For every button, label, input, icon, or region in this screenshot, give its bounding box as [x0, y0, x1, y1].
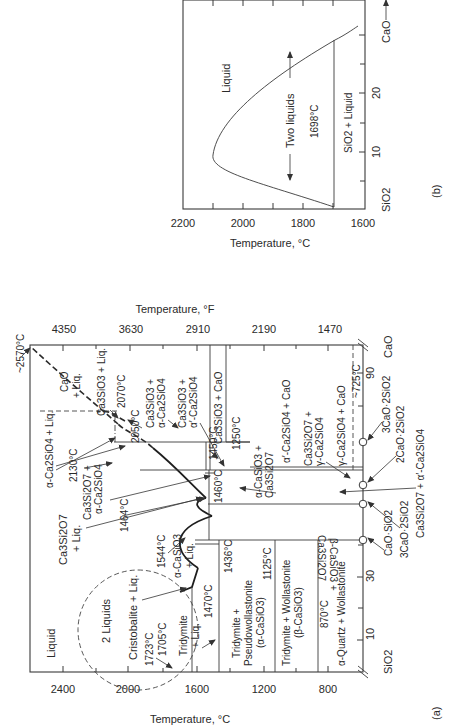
panel-b-temp-ticks — [213, 0, 333, 209]
compound-marker-3c2s-b — [359, 438, 367, 446]
label-2130: 2130°C — [68, 449, 79, 482]
region-ca3si2o7-gca2sio4-1: Ca3Si2O7 + — [303, 411, 314, 466]
panel-b-tick-2000: 2000 — [231, 217, 255, 229]
tick-2400: 2400 — [51, 683, 75, 695]
panel-b-comp-ticks — [359, 35, 365, 181]
region-trid-pseudo-3: (α-CaSiO3) — [255, 597, 266, 648]
liquidus-a-ca2sio4 — [153, 448, 206, 498]
region-ca3si2o7-liq-1: Ca3Si2O7 — [57, 514, 69, 565]
tick-2000: 2000 — [116, 683, 140, 695]
compound-casio2: CaO·SiO2 — [383, 509, 394, 556]
panel-b-comp-10: 10 — [370, 146, 382, 158]
region-ca3si2o7-aca2sio4-2: α-Ca2SiO4 — [93, 464, 104, 514]
region-ca3si2o7-aca2sio4-1: Ca3Si2O7 + — [82, 465, 93, 520]
region-trid-pseudo-1: Tridymite + — [231, 608, 242, 658]
region-liquid: Liquid — [45, 629, 57, 658]
label-1470: 1470°C — [203, 585, 214, 618]
tick-4350: 4350 — [52, 323, 76, 335]
region-gca2sio4-cao: γ-Ca2SiO4 + CaO — [336, 385, 347, 466]
label-1125: 1125°C — [262, 547, 273, 580]
compound-ca3si2o7-aca2sio4: Ca3Si2O7 + α′-Ca2SiO4 — [415, 428, 426, 538]
label-1723: 1723°C — [144, 633, 155, 666]
region-a-casio3-liq-2: + Liq. — [184, 543, 195, 568]
compound-marker-3c2s-a — [359, 500, 367, 508]
region-2-liquids: 2 Liquids — [100, 598, 112, 643]
phase-diagram-figure: 2400 2000 1600 1200 800 4350 3630 2910 2… — [0, 0, 463, 728]
compound-marker-casio2 — [359, 536, 367, 544]
panel-b: Liquid Two liquids 1698°C SiO2 + Liquid … — [171, 0, 442, 249]
region-bcasio3-ca3si2o7-2: Ca3Si2O7 — [316, 535, 327, 582]
panel-b-sio2: SiO2 — [380, 188, 392, 212]
panel-b-two-liquids: Two liquids — [284, 93, 296, 148]
region-a2ca2sio4-cao: α′-Ca2SiO4 + CaO — [281, 379, 292, 463]
region-cristobalite-liq: Cristobalite + Liq. — [127, 575, 139, 660]
temp-f-axis-label: Temperature, °F — [136, 303, 215, 315]
region-acasio3-ca3si2o7-2: Ca3Si2O7 — [264, 451, 275, 498]
tick-1200: 1200 — [252, 683, 276, 695]
label-2070: 2070°C — [116, 375, 127, 408]
region-trid-woll-1: Tridymite + Wollastonite — [281, 559, 292, 666]
region-ca3sio3-cao: Ca3SiO3 + CaO — [213, 371, 224, 444]
region-trid-woll-2: (β-CaSiO3) — [293, 587, 304, 638]
region-cao-liq-2: + Liq. — [71, 373, 82, 398]
panel-b-tick-2200: 2200 — [171, 217, 195, 229]
arrow-tridymite-liq — [202, 640, 215, 648]
tick-1470: 1470 — [318, 323, 342, 335]
region-ca3sio3-liq: Ca3SiO3 + Liq. — [96, 348, 107, 416]
arrow-ca3si2o7-aca2sio4 — [340, 488, 416, 492]
endpoint-cao: CaO — [382, 335, 394, 358]
panel-b-frame — [183, 0, 365, 209]
arrow-1723 — [156, 658, 172, 668]
label-1544: 1544°C — [156, 535, 167, 568]
liquidus-ca3si2o7 — [197, 498, 212, 516]
tick-3630: 3630 — [119, 323, 143, 335]
arrow-cristobalite — [142, 588, 186, 600]
tick-1600: 1600 — [185, 683, 209, 695]
region-ca3sio3-a2ca2sio4-2: α′-Ca2SiO4 — [188, 376, 199, 428]
label-1250: 1250°C — [231, 417, 242, 450]
compound-2cao-2sio2: 2CaO·2SiO2 — [395, 405, 406, 463]
arrow-casio2 — [368, 538, 384, 550]
panel-a-label: (a) — [430, 707, 442, 720]
endpoint-sio2: SiO2 — [382, 650, 394, 674]
label-1436: 1436°C — [223, 540, 234, 573]
region-a-casio3-liq-1: α-CaSiO3 — [172, 533, 183, 578]
compound-3cao-2sio2-a: 3CaO·2SiO2 — [399, 500, 410, 558]
panel-b-1698: 1698°C — [309, 105, 320, 138]
region-cao-liq-1: CaO — [59, 371, 70, 392]
tick-800: 800 — [319, 683, 337, 695]
region-bcasio3-ca3si2o7-1: β-CaSiO3 + — [328, 538, 339, 591]
panel-b-tick-1600: 1600 — [351, 217, 375, 229]
temp-c-axis-label: Temperature, °C — [150, 713, 230, 725]
compound-marker-2c2s — [359, 481, 367, 489]
label-1460: 1460°C — [213, 470, 224, 503]
comp-10: 10 — [364, 628, 376, 640]
region-ca3sio3-aca2sio4-1: Ca3SiO3 + — [145, 379, 156, 428]
label-870: 870°C — [319, 600, 330, 628]
arrow-aca2sio4-liq-1 — [56, 438, 115, 470]
panel-b-cao: CaO — [380, 20, 392, 43]
tick-2910: 2910 — [186, 323, 210, 335]
label-1705: 1705°C — [157, 623, 168, 656]
panel-b-sio2-liquid: SiO2 + Liquid — [343, 93, 354, 153]
arrow-aca2sio4-liq-2 — [56, 446, 125, 466]
region-aca2sio4-liq: α-Ca2SiO4 + Liq. — [44, 411, 55, 488]
region-ca3si2o7-liq-2: + Liq. — [70, 525, 82, 552]
comp-30: 30 — [364, 570, 376, 582]
compound-3cao-2sio2-b: 3CaO·2SiO2 — [381, 375, 392, 433]
panel-a: 2400 2000 1600 1200 800 4350 3630 2910 2… — [15, 303, 442, 725]
arrow-1464 — [122, 498, 205, 516]
label-725: ~725°C — [351, 364, 362, 398]
region-trid-pseudo-2: Pseudowollastonite — [243, 579, 254, 666]
region-ca3sio3-aca2sio4-2: α-Ca2SiO4 — [156, 378, 167, 428]
panel-b-temp-label: Temperature, °C — [230, 237, 310, 249]
liquidus-tail — [335, 26, 358, 40]
region-tridymite-liq-1: Tridymite — [178, 615, 189, 656]
region-ca3si2o7-gca2sio4-2: γ-Ca2SiO4 — [314, 417, 325, 466]
region-tridymite-liq-2: + Liq. — [190, 623, 201, 648]
panel-b-tick-1800: 1800 — [291, 217, 315, 229]
region-ca3sio3-a2ca2sio4-1: Ca3SiO3 + — [177, 379, 188, 428]
panel-b-liquid: Liquid — [220, 64, 232, 93]
arrow-c2s — [368, 456, 396, 482]
arrow-3c2s-b — [368, 422, 382, 440]
